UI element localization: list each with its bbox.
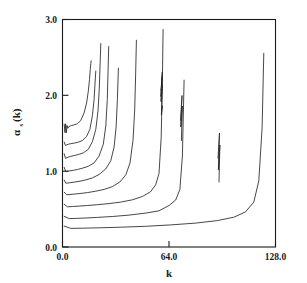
- alpha-s-vs-k-plot: 0.0 1.0 2.0 3.0 0.0 64.0 128.0 k α s (k): [0, 0, 307, 283]
- y-axis-title: α s (k): [10, 108, 25, 136]
- y-axis-title-tail: (k): [10, 108, 23, 122]
- curve-9: [64, 53, 264, 228]
- zigzag-curve-7: [161, 72, 163, 115]
- y-axis-title-subscript: s: [17, 124, 25, 127]
- zigzag-curve-8: [181, 96, 183, 141]
- x-tick-label-0: 0.0: [57, 252, 69, 262]
- y-axis-title-alpha: α: [10, 129, 22, 136]
- x-tick-label-1: 64.0: [161, 252, 178, 262]
- curve-2: [64, 71, 96, 146]
- y-tick-label-1: 1.0: [45, 167, 57, 177]
- curve-1: [64, 61, 91, 133]
- y-tick-label-3: 3.0: [45, 15, 57, 25]
- zigzag-artifact-group: [161, 72, 220, 182]
- zigzag-curve-9: [218, 133, 220, 182]
- x-tick-label-2: 128.0: [265, 252, 287, 262]
- y-axis-ticks: [63, 20, 69, 248]
- curve-3: [64, 44, 101, 159]
- curve-4: [64, 47, 109, 172]
- curve-group: [64, 30, 264, 229]
- curve-7: [64, 30, 163, 207]
- x-axis-ticks: [63, 241, 276, 247]
- y-tick-label-2: 2.0: [45, 91, 57, 101]
- curve-8: [64, 80, 184, 219]
- chart-figure: 0.0 1.0 2.0 3.0 0.0 64.0 128.0 k α s (k): [0, 0, 307, 283]
- y-tick-label-0: 0.0: [45, 243, 57, 253]
- x-axis-title: k: [166, 267, 173, 279]
